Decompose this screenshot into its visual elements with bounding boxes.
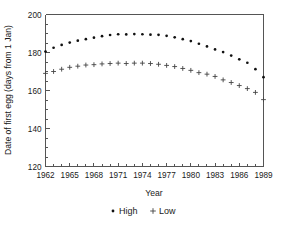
plot-frame [46,15,264,167]
data-point-high [262,76,265,79]
data-point-low [59,67,64,72]
data-point-high [109,34,112,37]
data-point-high [222,51,225,54]
data-point-high [44,50,47,53]
data-point-high [101,35,104,38]
series-low-points [43,61,266,102]
data-point-low [116,61,121,66]
data-point-high [198,42,201,45]
y-tick-label: 200 [28,11,42,20]
x-tick-label: 1977 [158,171,177,180]
data-point-high [214,48,217,51]
data-point-high [246,61,249,64]
x-tick-label: 1986 [230,171,249,180]
y-tick-label: 140 [28,125,42,134]
data-point-high [85,38,88,41]
data-point-high [173,36,176,39]
data-point-high [189,40,192,43]
data-point-low [245,86,250,91]
data-point-high [76,39,79,42]
data-point-low [205,72,210,77]
data-point-low [92,62,97,67]
data-point-low [67,65,72,70]
data-point-high [254,68,257,71]
scatter-plot: 120140160180200 196219651968197119741977… [0,0,282,225]
x-tick-label: 1968 [85,171,104,180]
data-point-low [75,64,80,69]
legend-marker-low [150,208,156,214]
data-point-high [60,44,63,47]
x-tick-label: 1965 [61,171,80,180]
x-axis-title: Year [145,188,163,198]
data-point-low [51,69,56,74]
data-point-high [93,36,96,39]
data-point-high [238,58,241,61]
data-point-low [172,64,177,69]
data-point-high [157,33,160,36]
data-point-low [253,90,258,95]
x-tick-label: 1980 [182,171,201,180]
x-tick-label: 1962 [36,171,55,180]
y-tick-label: 180 [28,49,42,58]
x-tick-label: 1971 [109,171,128,180]
legend-marker-high [112,210,115,213]
data-point-high [68,41,71,44]
x-tick-label: 1974 [133,171,152,180]
series-high-points [44,33,265,79]
data-point-high [117,33,120,36]
data-point-high [133,33,136,36]
data-point-low [148,61,153,66]
y-tick-label: 160 [28,87,42,96]
legend-label: High [119,206,138,216]
data-point-high [206,45,209,48]
data-point-low [188,68,193,73]
chart-figure: 120140160180200 196219651968197119741977… [0,0,282,225]
x-tick-label: 1983 [206,171,225,180]
data-point-high [165,34,168,37]
data-point-high [141,33,144,36]
data-point-low [124,61,129,66]
axis-ticks [46,15,264,167]
data-point-low [83,63,88,68]
data-point-low [100,62,105,67]
legend-label: Low [159,206,176,216]
data-point-high [52,46,55,49]
data-point-low [261,97,266,102]
chart-legend: HighLow [112,206,176,216]
y-tick-labels: 120140160180200 [28,11,42,172]
data-point-low [197,70,202,75]
data-point-high [125,33,128,36]
y-axis-title: Date of first egg (days from 1 Jan) [3,25,13,155]
data-point-high [181,38,184,41]
data-point-low [180,66,185,71]
data-point-low [237,83,242,88]
data-point-low [221,77,226,82]
data-point-low [140,61,145,66]
data-point-low [132,61,137,66]
x-tick-labels: 1962196519681971197419771980198319861989 [36,171,273,180]
data-point-low [213,74,218,79]
data-point-low [164,63,169,68]
x-tick-label: 1989 [254,171,273,180]
data-point-low [229,80,234,85]
data-point-high [230,54,233,57]
data-point-high [149,33,152,36]
data-point-low [156,62,161,67]
data-point-low [108,61,113,66]
